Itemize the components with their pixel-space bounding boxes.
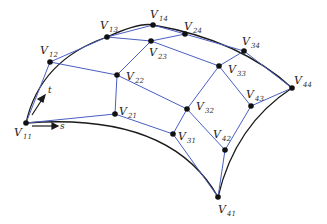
control-point-v41 (215, 194, 221, 200)
point-label-subscript: 33 (237, 70, 246, 78)
point-label-subscript: 14 (159, 15, 168, 23)
t-arrowhead-icon (38, 95, 45, 102)
point-label-v14: V14 (150, 8, 168, 23)
s-arrowhead-icon (52, 123, 58, 129)
control-point-v42 (222, 147, 228, 153)
point-label-v21: V21 (119, 105, 137, 120)
point-label-subscript: 42 (221, 135, 231, 143)
point-label-v42: V42 (213, 128, 231, 143)
control-point-v43 (248, 103, 254, 109)
boundary-curve-s1 (153, 25, 292, 88)
t-axis-label: t (48, 85, 52, 95)
point-label-v22: V22 (126, 70, 144, 85)
control-net (26, 25, 292, 197)
control-point-v21 (112, 111, 118, 117)
point-label-subscript: 11 (23, 133, 32, 141)
direction-arrows (32, 95, 58, 129)
point-label-subscript: 34 (251, 42, 260, 50)
control-point-v23 (148, 38, 154, 44)
control-point-v32 (184, 106, 190, 112)
point-label-subscript: 31 (187, 137, 196, 145)
point-label-v43: V43 (246, 88, 264, 103)
s-axis-label: s (60, 121, 65, 131)
boundary-curve-s0 (26, 122, 218, 197)
point-label-v11: V11 (14, 126, 32, 141)
point-label-v33: V33 (228, 63, 246, 78)
point-label-v12: V12 (40, 44, 58, 59)
control-point-v13 (104, 34, 110, 40)
point-label-subscript: 12 (49, 51, 58, 59)
point-label-subscript: 22 (134, 77, 144, 85)
control-point-v31 (170, 131, 176, 137)
control-point-v22 (114, 72, 120, 78)
point-label-subscript: 23 (157, 53, 167, 61)
point-label-subscript: 32 (205, 107, 214, 115)
point-label-subscript: 41 (226, 210, 236, 218)
point-label-v24: V24 (184, 20, 202, 35)
point-label-subscript: 24 (192, 27, 202, 35)
control-point-v33 (216, 63, 222, 69)
control-point-v14 (150, 22, 156, 28)
point-label-subscript: 43 (254, 95, 264, 103)
point-label-v41: V41 (218, 203, 236, 218)
surface-boundary (26, 25, 292, 198)
bezier-surface-diagram: t s V11V12V13V14V21V22V23V24V31V32V33V34… (0, 0, 327, 224)
point-label-subscript: 21 (127, 112, 137, 120)
point-label-v13: V13 (100, 19, 118, 34)
point-label-subscript: 13 (109, 26, 118, 34)
control-point-v34 (241, 48, 247, 54)
point-label-subscript: 44 (302, 81, 312, 89)
point-label-v32: V32 (196, 100, 214, 115)
point-label-v23: V23 (149, 46, 167, 61)
point-label-v34: V34 (242, 35, 260, 50)
control-point-v11 (23, 120, 29, 126)
point-label-v44: V44 (294, 74, 312, 89)
control-point-labels: V11V12V13V14V21V22V23V24V31V32V33V34V41V… (14, 8, 312, 218)
control-point-v12 (47, 59, 53, 65)
point-label-v31: V31 (178, 130, 196, 145)
net-col-4 (153, 25, 292, 88)
